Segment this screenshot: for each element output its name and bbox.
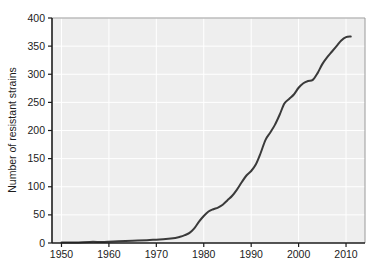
x-tick-label: 1990 bbox=[240, 248, 264, 260]
y-tick-label: 300 bbox=[27, 68, 45, 80]
x-tick-label: 1980 bbox=[192, 248, 216, 260]
y-tick-label: 150 bbox=[27, 152, 45, 164]
chart-canvas: 050100150200250300350400 195019601970198… bbox=[0, 0, 382, 278]
y-tick-label: 400 bbox=[27, 12, 45, 24]
y-tick-label: 0 bbox=[39, 237, 45, 249]
y-tick-label: 100 bbox=[27, 180, 45, 192]
y-tick-label: 350 bbox=[27, 40, 45, 52]
x-tick-label: 1970 bbox=[145, 248, 169, 260]
x-tick-label: 1950 bbox=[50, 248, 74, 260]
x-tick-label: 1960 bbox=[97, 248, 121, 260]
y-tick-label: 250 bbox=[27, 96, 45, 108]
y-axis-title: Number of resistant strains bbox=[6, 67, 18, 192]
y-tick-label: 50 bbox=[33, 208, 45, 220]
y-tick-label: 200 bbox=[27, 124, 45, 136]
x-tick-label: 2000 bbox=[287, 248, 311, 260]
x-tick-label: 2010 bbox=[334, 248, 358, 260]
resistant-strains-line-chart: 050100150200250300350400 195019601970198… bbox=[0, 0, 382, 278]
